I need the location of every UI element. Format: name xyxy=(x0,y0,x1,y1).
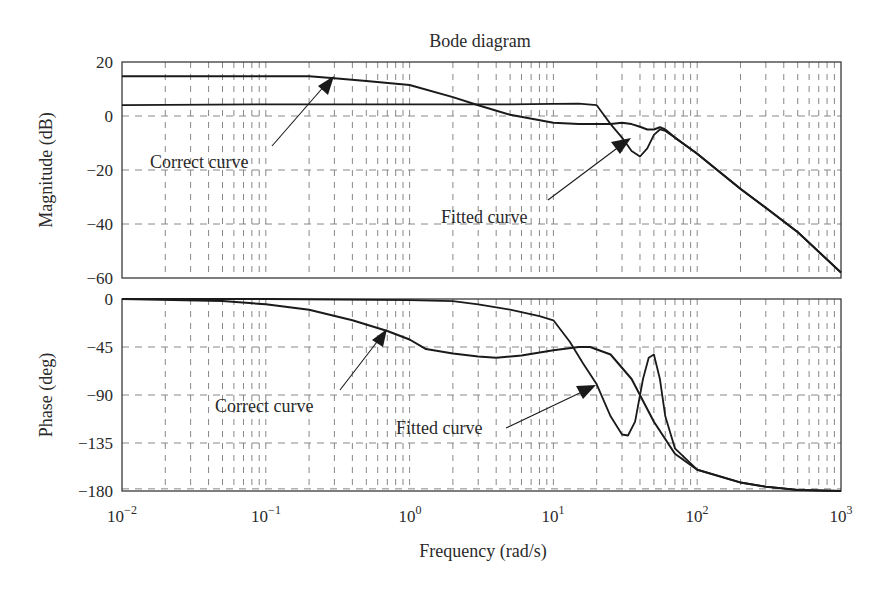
phase-fitted-label: Fitted curve xyxy=(396,418,482,438)
magnitude-annotation-correct: Correct curve xyxy=(150,76,334,172)
mag-tick-neg60: −60 xyxy=(86,269,113,288)
phase-tick-neg45: −45 xyxy=(86,338,113,357)
phase-y-ticks: 0 −45 −90 −135 −180 xyxy=(78,290,113,501)
mag-tick-neg40: −40 xyxy=(86,215,113,234)
mag-tick-neg20: −20 xyxy=(86,161,113,180)
arrowhead-icon xyxy=(576,385,596,399)
phase-tick-neg90: −90 xyxy=(86,386,113,405)
x-axis-ticks: 10−2 10−1 100 101 102 103 xyxy=(107,503,852,526)
phase-axis-title: Phase (deg) xyxy=(36,353,57,437)
mag-tick-20: 20 xyxy=(96,53,113,72)
arrowhead-icon xyxy=(318,76,334,95)
phase-correct-label: Correct curve xyxy=(215,396,313,416)
bode-diagram-chart: Bode diagram 20 0 −20 −40 −60 Magnitude … xyxy=(0,0,883,589)
magnitude-axis-title: Magnitude (dB) xyxy=(36,112,57,227)
phase-grid xyxy=(122,299,841,491)
arrowhead-icon xyxy=(372,329,387,347)
magnitude-y-ticks: 20 0 −20 −40 −60 xyxy=(86,53,113,288)
mag-tick-0: 0 xyxy=(105,107,114,126)
magnitude-panel: 20 0 −20 −40 −60 Magnitude (dB) Correct … xyxy=(36,53,841,288)
magnitude-curves xyxy=(122,76,841,272)
x-tick-1e0: 100 xyxy=(399,503,422,526)
phase-tick-0: 0 xyxy=(105,290,114,309)
x-tick-1e-1: 10−1 xyxy=(251,503,281,526)
x-tick-1e-2: 10−2 xyxy=(107,503,137,526)
mag-fitted-label: Fitted curve xyxy=(441,207,527,227)
correct-curve-line xyxy=(122,76,841,272)
phase-tick-neg180: −180 xyxy=(78,482,113,501)
x-axis-title: Frequency (rad/s) xyxy=(419,541,546,562)
magnitude-annotation-fitted: Fitted curve xyxy=(441,138,631,227)
x-tick-1e1: 101 xyxy=(542,503,565,526)
mag-correct-label: Correct curve xyxy=(150,152,248,172)
fitted-curve-line xyxy=(122,104,841,273)
x-tick-1e2: 102 xyxy=(686,503,709,526)
x-tick-1e3: 103 xyxy=(830,503,853,526)
phase-tick-neg135: −135 xyxy=(78,434,113,453)
phase-panel: 0 −45 −90 −135 −180 Phase (deg) Correct … xyxy=(36,290,841,501)
phase-annotation-correct: Correct curve xyxy=(215,329,387,416)
chart-title: Bode diagram xyxy=(429,31,530,51)
